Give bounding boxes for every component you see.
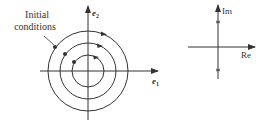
phase-plane: Initial conditions e2 e1 [14,6,159,120]
phase-portrait-figure: Initial conditions e2 e1 Im Re [0,0,270,125]
initial-condition-middle [63,52,67,56]
e1-label: e1 [152,76,159,87]
initial-condition-outer [53,45,57,49]
e2-label: e2 [92,8,99,19]
initial-condition-inner [72,60,76,64]
re-label: Re [241,50,251,60]
complex-plane: Im Re [188,5,255,79]
annotation-leader [44,36,54,45]
annotation-line1: Initial [25,9,49,20]
annotation-line2: conditions [14,21,56,32]
im-label: Im [222,6,232,16]
